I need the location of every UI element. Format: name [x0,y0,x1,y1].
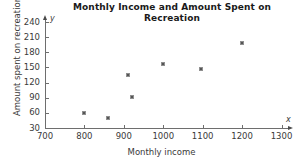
x-tick-mark [163,125,164,129]
x-tick-mark [124,125,125,129]
y-axis-letter: y [50,14,55,23]
chart-title: Monthly Income and Amount Spent on Recre… [48,2,296,24]
x-tick-label: 800 [67,131,101,141]
y-tick-mark [45,113,49,114]
x-tick-mark [203,125,204,129]
y-tick-mark [45,98,49,99]
x-tick-mark [242,125,243,129]
x-tick-label: 1300 [265,131,299,141]
x-tick-mark [282,125,283,129]
x-tick-mark [45,125,46,129]
y-tick-label: 60 [14,108,40,117]
y-tick-mark [45,22,49,23]
x-tick-label: 700 [28,131,62,141]
x-tick-label: 1000 [146,131,180,141]
data-point [106,116,110,120]
x-axis-arrow-icon [288,126,293,130]
x-tick-label: 1200 [225,131,259,141]
y-tick-mark [45,37,49,38]
y-tick-mark [45,67,49,68]
x-axis-letter: x [286,115,291,124]
data-point [82,111,86,115]
x-tick-label: 1100 [186,131,220,141]
y-tick-label: 180 [14,48,40,57]
data-point [161,62,165,66]
x-axis-label: Monthly income [45,147,278,157]
y-tick-mark [45,52,49,53]
y-tick-label: 240 [14,18,40,27]
y-tick-label: 90 [14,93,40,102]
y-tick-label: 210 [14,33,40,42]
data-point [199,67,203,71]
y-tick-mark [45,83,49,84]
data-point [240,41,244,45]
data-point [130,95,134,99]
x-tick-label: 900 [107,131,141,141]
x-tick-mark [84,125,85,129]
data-point [126,73,130,77]
y-tick-label: 120 [14,78,40,87]
scatter-chart: Monthly Income and Amount Spent on Recre… [0,0,299,163]
x-axis-line [45,128,288,129]
y-axis-arrow-icon [43,15,47,20]
y-tick-label: 150 [14,63,40,72]
